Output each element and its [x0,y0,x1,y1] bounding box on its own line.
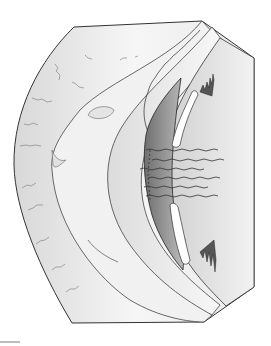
anatomical-illustration [0,0,271,346]
scale-bar [0,341,20,343]
